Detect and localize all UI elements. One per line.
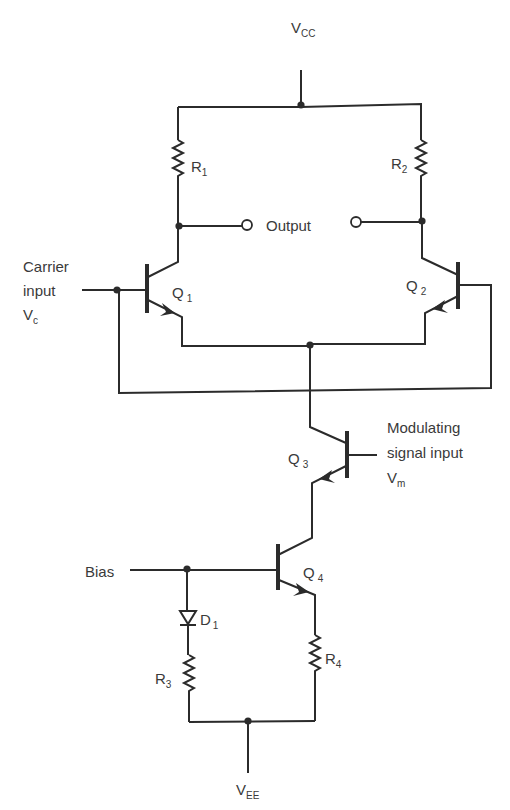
vcc-junction — [297, 101, 304, 108]
modulating-label-line2: signal input — [387, 444, 464, 461]
r3-zigzag-icon — [184, 655, 194, 722]
r3-label: R3 — [155, 670, 172, 690]
vcc-label: VCC — [291, 19, 315, 39]
r4-label: R4 — [325, 650, 342, 670]
r1-zigzag-icon — [173, 140, 183, 226]
vcc-supply: VCC — [178, 19, 421, 140]
vcc-rail — [178, 104, 421, 140]
vee-label: VEE — [236, 781, 260, 801]
carrier-input-label-line1: Carrier — [23, 258, 69, 275]
carrier-input-label-line3: Vc — [23, 306, 38, 326]
modulating-label-line1: Modulating — [387, 419, 460, 436]
vee-rail — [189, 721, 315, 722]
r4-zigzag-icon — [310, 635, 320, 721]
r2-zigzag-icon — [416, 140, 426, 222]
cross-coupling-loop — [119, 285, 491, 393]
modulating-label-line3: Vm — [387, 469, 405, 489]
q1-label: Q1 — [172, 284, 193, 304]
resistor-r4: R4 — [310, 635, 342, 721]
q2-label: Q2 — [406, 277, 427, 297]
r1-label: R1 — [191, 158, 208, 178]
carrier-input: Carrier input Vc — [23, 258, 491, 393]
vee-supply: VEE — [189, 717, 315, 801]
modulating-input: Modulating signal input Vm — [387, 419, 464, 489]
resistor-r2: R2 — [391, 140, 426, 222]
resistor-r3: R3 — [155, 655, 194, 722]
q1-emitter-arrow-icon — [160, 303, 175, 316]
r2-label: R2 — [391, 155, 408, 175]
carrier-input-label-line2: input — [23, 282, 56, 299]
output-terminal-left — [242, 220, 252, 230]
d1-diode-icon — [180, 611, 196, 624]
q4-label: Q4 — [303, 564, 324, 584]
diode-d1: D1 — [180, 569, 219, 655]
circuit-diagram: VCC R1 R2 Output Q1 Carrier input Vc — [0, 0, 510, 810]
q4-emitter-arrow-icon — [293, 583, 309, 596]
output-label: Output — [266, 217, 312, 234]
output-terminals: Output — [175, 217, 425, 234]
q3-label: Q3 — [288, 450, 309, 470]
d1-label: D1 — [200, 611, 219, 631]
output-terminal-right — [351, 217, 361, 227]
transistor-q4: Q4 — [278, 544, 324, 635]
transistor-q1: Q1 — [147, 226, 310, 346]
transistor-q2: Q2 — [306, 221, 458, 349]
bias-label: Bias — [85, 563, 114, 580]
resistor-r1: R1 — [173, 140, 208, 226]
bias-input: Bias — [85, 563, 278, 580]
transistor-q3: Q3 — [278, 345, 377, 555]
